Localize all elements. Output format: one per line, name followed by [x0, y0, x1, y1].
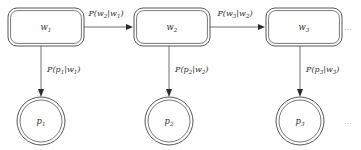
hmm-diagram: P(w2|w1) P(w3|w2) P(p1|w1) P(p2|w2) P(p3…	[0, 0, 361, 150]
arrow-head-icon	[258, 24, 265, 30]
diagram-canvas: P(w2|w1) P(w3|w2) P(p1|w1) P(p2|w2) P(p3…	[0, 0, 361, 150]
emission-label-w2-to-p2: P(p2|w2)	[174, 65, 208, 75]
observation-node-p1[interactable]: p1	[17, 97, 65, 145]
state-node-w1[interactable]: w1	[8, 8, 84, 46]
arrow-head-icon	[166, 89, 172, 97]
ellipsis-observations: …	[344, 117, 353, 126]
emission-edge-w2-to-p2: P(p2|w2)	[166, 46, 208, 97]
transition-edge-w1-to-w2: P(w2|w1)	[84, 9, 133, 30]
arrow-head-icon	[126, 24, 133, 30]
arrow-head-icon	[297, 89, 303, 97]
emission-label-w1-to-p1: P(p1|w1)	[46, 65, 80, 75]
emission-edge-w3-to-p3: P(p3|w3)	[297, 46, 339, 97]
state-node-w2[interactable]: w2	[134, 8, 210, 46]
transition-label-w1-to-w2: P(w2|w1)	[87, 9, 123, 19]
arrow-head-icon	[38, 89, 44, 97]
state-node-w3[interactable]: w3	[266, 8, 342, 46]
transition-edge-w2-to-w3: P(w3|w2)	[210, 9, 265, 30]
transition-label-w2-to-w3: P(w3|w2)	[216, 9, 252, 19]
observation-node-p3[interactable]: p3	[276, 97, 324, 145]
emission-edge-w1-to-p1: P(p1|w1)	[38, 46, 80, 97]
ellipsis-states: …	[344, 23, 353, 32]
emission-label-w3-to-p3: P(p3|w3)	[305, 65, 339, 75]
observation-node-p2[interactable]: p2	[145, 97, 193, 145]
